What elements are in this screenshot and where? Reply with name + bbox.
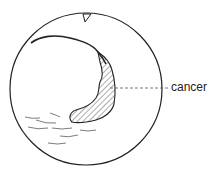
- mucosal-fold-line: [31, 36, 106, 64]
- hatched-lesion: [70, 52, 115, 123]
- orientation-marker-icon: [83, 14, 91, 22]
- field-of-view-circle: [10, 13, 162, 165]
- cancer-label: cancer: [171, 80, 207, 94]
